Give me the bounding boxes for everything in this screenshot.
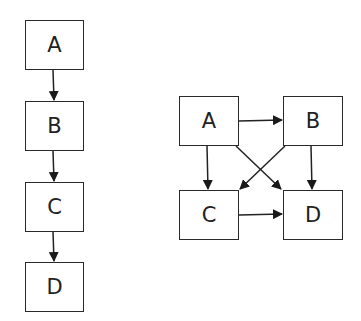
edge-c-d [239, 214, 282, 215]
node-label: A [202, 109, 216, 133]
node-label: A [47, 33, 61, 57]
node-b-right: B [283, 96, 343, 146]
edge-a-d [236, 146, 281, 189]
node-d-right: D [283, 190, 343, 240]
edge-b-d [311, 146, 312, 189]
edge-a-b [239, 120, 282, 121]
edge-c-d-left [53, 232, 54, 261]
node-d-left: D [25, 262, 84, 312]
edge-b-c [240, 146, 285, 189]
edge-a-c [207, 146, 208, 189]
node-label: B [47, 114, 61, 138]
node-label: D [46, 275, 62, 299]
node-label: B [306, 109, 320, 133]
node-c-right: C [179, 190, 239, 240]
edge-b-c-left [53, 151, 54, 181]
node-a-left: A [25, 20, 84, 70]
node-a-right: A [179, 96, 239, 146]
edge-a-b-left [53, 70, 54, 100]
node-label: C [47, 195, 62, 219]
node-label: C [202, 203, 217, 227]
node-c-left: C [25, 182, 84, 232]
node-b-left: B [25, 101, 84, 151]
node-label: D [305, 203, 321, 227]
